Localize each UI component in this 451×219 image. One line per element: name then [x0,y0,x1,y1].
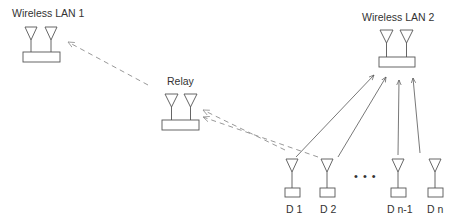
ellipsis-dots: • • • [354,170,377,182]
edge-dn-to-wlan2 [413,78,420,153]
antenna-icon [25,27,37,52]
antenna-icon [400,30,413,57]
access-point-box-icon [23,52,60,62]
device-d2-node: D 2 [320,159,337,215]
wireless-lan-2-node: Wireless LAN 2 [362,11,435,67]
relay-node: Relay [162,75,199,130]
antenna-icon [380,30,393,57]
access-point-box-icon [379,57,415,67]
relay-box-icon [162,120,199,130]
device-dn-1-node: D n-1 [387,159,413,215]
device-dn-label: D n [427,203,444,215]
edge-relay-to-wlan1 [68,42,148,85]
device-dn-1-label: D n-1 [387,203,413,215]
device-box-icon [428,188,443,197]
network-diagram: Wireless LAN 1 Wireless LAN 2 Relay [0,0,451,219]
edge-d2-to-wlan2 [338,77,386,157]
device-d2-label: D 2 [320,203,337,215]
device-box-icon [391,188,406,197]
antenna-icon [321,159,333,188]
antenna-icon [392,159,404,188]
antenna-icon [184,94,197,120]
device-d1-label: D 1 [286,203,303,215]
relay-label: Relay [167,75,195,87]
wireless-lan-1-node: Wireless LAN 1 [12,7,85,62]
edge-d1-to-relay [203,110,285,150]
antenna-icon [165,94,178,120]
antenna-icon [286,159,298,188]
antenna-icon [45,27,57,52]
wireless-lan-1-label: Wireless LAN 1 [12,7,85,19]
device-box-icon [320,188,335,197]
wireless-lan-2-label: Wireless LAN 2 [362,11,435,23]
antenna-icon [429,159,441,188]
device-d1-node: D 1 [285,159,303,215]
device-box-icon [285,188,300,197]
edge-dn-1-to-wlan2 [398,80,399,155]
edge-d2-to-relay [203,117,318,157]
device-dn-node: D n [427,159,444,215]
